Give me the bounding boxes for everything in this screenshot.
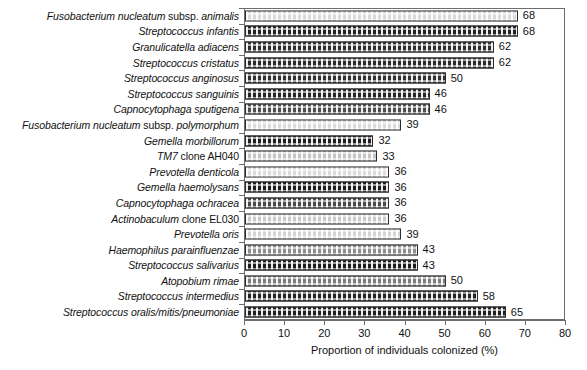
category-label: Streptococcus intermedius [118, 291, 244, 302]
category-label: Streptococcus infantis [138, 26, 244, 37]
category-label: Actinobaculum clone EL030 [111, 213, 244, 224]
bar-value-label: 36 [394, 213, 406, 224]
category-label-qualifier: subsp. [141, 119, 177, 131]
category-label: TM7 clone AH040 [157, 151, 244, 162]
bar-row: Streptococcus cristatus62 [0, 55, 587, 71]
category-label-genus: Streptococcus infantis [138, 25, 239, 37]
category-label-genus: Capnocytophaga ochracea [116, 197, 239, 209]
bar-container: 62 [245, 41, 494, 52]
x-tick-label: 20 [318, 327, 330, 339]
category-label-genus: Gemella morbillorum [144, 134, 239, 146]
bar-value-label: 36 [394, 197, 406, 208]
category-label-genus: Prevotella oris [174, 228, 239, 240]
bar-value-label: 36 [394, 182, 406, 193]
bar-value-label: 43 [423, 260, 435, 271]
category-tick [239, 258, 244, 259]
category-label-qualifier: clone EL030 [179, 212, 239, 224]
category-label-genus: Streptococcus intermedius [118, 290, 239, 302]
x-tick [405, 320, 406, 325]
category-tick [239, 24, 244, 25]
category-label: Capnocytophaga ochracea [116, 198, 244, 209]
category-tick [239, 164, 244, 165]
bar [245, 10, 518, 21]
category-label: Gemella morbillorum [144, 135, 244, 146]
bar-value-label: 68 [523, 10, 535, 21]
bar [245, 151, 377, 162]
category-label-genus: Atopobium rimae [161, 275, 239, 287]
bar-container: 39 [245, 119, 401, 130]
bar-row: Gemella haemolysans36 [0, 180, 587, 196]
category-label-genus: Streptococcus salivarius [128, 259, 239, 271]
category-tick [239, 273, 244, 274]
category-label: Streptococcus anginosus [124, 73, 244, 84]
category-label: Streptococcus sanguinis [127, 89, 244, 100]
category-label: Haemophilus parainfluenzae [109, 244, 245, 255]
category-label: Granulicatella adiacens [132, 42, 244, 53]
bar-value-label: 39 [406, 119, 418, 130]
bar-container: 43 [245, 244, 418, 255]
x-axis-title: Proportion of individuals colonized (%) [244, 344, 565, 356]
bar [245, 275, 446, 286]
category-tick [239, 211, 244, 212]
category-label-genus: Prevotella denticola [149, 165, 239, 177]
category-label: Prevotella denticola [149, 166, 244, 177]
x-axis: 01020304050607080 [244, 320, 565, 321]
bar-row: Gemella morbillorum32 [0, 133, 587, 149]
bar-value-label: 68 [523, 26, 535, 37]
bar-value-label: 62 [499, 41, 511, 52]
category-label-genus: Streptococcus oralis/mitis/pneumoniae [63, 306, 239, 318]
bar [245, 73, 446, 84]
bar-value-label: 32 [378, 135, 390, 146]
category-label-genus: Actinobaculum [111, 212, 179, 224]
category-tick [239, 242, 244, 243]
category-label-genus: Fusobacterium nucleatum [22, 119, 141, 131]
category-label-genus: Gemella haemolysans [137, 181, 239, 193]
bar [245, 41, 494, 52]
bar [245, 166, 389, 177]
category-label-genus: Haemophilus parainfluenzae [109, 243, 240, 255]
x-tick [324, 320, 325, 325]
bar [245, 26, 518, 37]
bar-container: 68 [245, 26, 518, 37]
bar-container: 46 [245, 88, 430, 99]
x-tick [445, 320, 446, 325]
x-tick [485, 320, 486, 325]
bar-value-label: 58 [483, 291, 495, 302]
category-label: Capnocytophaga sputigena [114, 104, 244, 115]
bar-value-label: 33 [382, 151, 394, 162]
x-tick-label: 60 [479, 327, 491, 339]
category-tick [239, 148, 244, 149]
x-tick-label: 40 [398, 327, 410, 339]
category-label: Streptococcus oralis/mitis/pneumoniae [63, 307, 244, 318]
bar [245, 182, 389, 193]
category-label-genus: Streptococcus sanguinis [127, 88, 239, 100]
bar-row: Streptococcus oralis/mitis/pneumoniae65 [0, 304, 587, 320]
bar-row: Granulicatella adiacens62 [0, 39, 587, 55]
category-label-genus: Streptococcus cristatus [133, 56, 239, 68]
bar-value-label: 46 [435, 88, 447, 99]
x-tick [565, 320, 566, 325]
bar-row: Capnocytophaga ochracea36 [0, 195, 587, 211]
category-label-genus: Fusobacterium nucleatum [47, 10, 166, 22]
x-tick [284, 320, 285, 325]
bar [245, 135, 373, 146]
bar-container: 36 [245, 197, 389, 208]
x-tick-label: 70 [519, 327, 531, 339]
category-tick [239, 195, 244, 196]
bar-row: Prevotella denticola36 [0, 164, 587, 180]
category-label: Fusobacterium nucleatum subsp. polymorph… [22, 120, 244, 131]
bar-value-label: 65 [511, 307, 523, 318]
category-tick [239, 180, 244, 181]
bar-container: 36 [245, 166, 389, 177]
category-label-genus: Capnocytophaga sputigena [114, 103, 239, 115]
category-tick [239, 39, 244, 40]
bar-value-label: 50 [451, 275, 463, 286]
category-tick [239, 86, 244, 87]
bar-container: 32 [245, 135, 373, 146]
bar-container: 43 [245, 260, 418, 271]
bar-container: 46 [245, 104, 430, 115]
x-tick [364, 320, 365, 325]
x-tick-label: 30 [358, 327, 370, 339]
bar-row: Streptococcus sanguinis46 [0, 86, 587, 102]
category-label: Streptococcus cristatus [133, 57, 244, 68]
